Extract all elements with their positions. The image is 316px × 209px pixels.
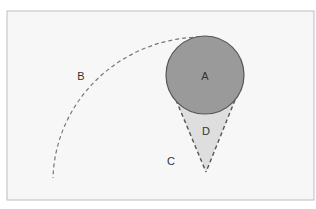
label-a: A [201,70,209,82]
label-d: D [202,125,210,137]
diagram-svg: A B C D [0,0,316,209]
label-b: B [77,70,84,82]
diagram-canvas: A B C D [0,0,316,209]
label-c: C [167,155,175,167]
